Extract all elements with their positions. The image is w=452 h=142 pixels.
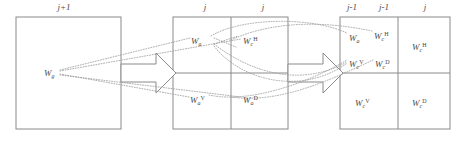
wlab-base: W [374,31,382,41]
coefficient-label-mid-wad: WaD [243,93,258,108]
wlab-sup: D [422,98,426,104]
wlab-base: W [412,42,420,52]
wlab-base: W [349,33,357,43]
scale-label-mid-right: j [250,2,276,12]
wlab-base: W [412,98,420,108]
coefficient-label-right-wch-large: WcH [412,40,427,55]
wlab-sup: D [385,59,389,65]
scale-label-left: j+1 [50,2,78,12]
wlab-base: W [190,95,198,105]
scale-label-right-b: j-1 [370,2,398,12]
coefficient-label-right-wcd-large: WcD [412,96,427,111]
wlab-base: W [44,68,52,78]
wlab-base: W [191,36,199,46]
coefficient-label-mid-wch: WcH [243,34,258,49]
wlab-base: W [375,59,383,69]
wlab-sub: g [52,73,55,79]
coefficient-label-mid-wav: WaV [190,93,205,108]
coefficient-label-right-wa: Wa [349,31,360,46]
wlab-base: W [243,95,251,105]
wlab-sup: H [384,31,388,37]
coefficient-label-right-wcv-small: WcV [349,57,364,72]
scale-label-right-a: j-1 [338,2,366,12]
wlab-sup: D [254,95,258,101]
wlab-sup: H [253,36,257,42]
figure-canvas: j+1 j j j-1 j-1 j Wg Wa WcH WaV WaD Wa W… [0,0,452,142]
wlab-sup: V [359,59,363,65]
wlab-base: W [349,59,357,69]
wlab-sup: H [422,42,426,48]
block-arrow-right [288,53,343,93]
scale-label-right-c: j [412,2,438,12]
coefficient-label-right-wcd-small: WcD [375,57,390,72]
wlab-sub: a [357,38,360,44]
wlab-sup: V [201,95,205,101]
scale-label-mid-left: j [192,2,218,12]
wlab-base: W [355,98,363,108]
wlab-sup: V [365,98,369,104]
coefficient-label-mid-wa: Wa [191,34,202,49]
coefficient-label-right-wcv-large: WcV [355,96,370,111]
coefficient-label-right-wch-small: WcH [374,29,389,44]
coefficient-label-wg: Wg [44,66,55,81]
left-panel-group [16,17,121,129]
wlab-sub: a [199,41,202,47]
wlab-base: W [243,36,251,46]
left-panel-box [16,17,121,129]
